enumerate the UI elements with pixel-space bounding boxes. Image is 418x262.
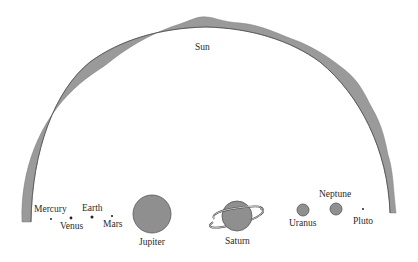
neptune-label: Neptune (319, 190, 351, 200)
sun-label: Sun (195, 43, 210, 53)
venus-icon (70, 217, 73, 220)
mercury-icon (50, 218, 52, 220)
venus-label: Venus (60, 222, 83, 232)
mars-label: Mars (103, 220, 123, 230)
mercury-label: Mercury (34, 205, 67, 215)
jupiter-icon (133, 195, 171, 233)
earth-label: Earth (82, 204, 103, 214)
uranus-label: Uranus (289, 219, 316, 229)
saturn-icon (210, 201, 263, 231)
pluto-label: Pluto (353, 217, 373, 227)
saturn-label: Saturn (225, 237, 250, 247)
uranus-icon (297, 204, 309, 216)
jupiter-label: Jupiter (139, 238, 165, 248)
pluto-icon (362, 208, 364, 210)
mars-icon (111, 215, 113, 217)
earth-icon (91, 216, 94, 219)
neptune-icon (330, 203, 342, 215)
